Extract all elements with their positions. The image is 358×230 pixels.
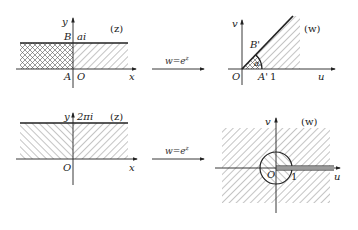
mapping-label: w=ez xyxy=(165,54,190,66)
point-a-label: A xyxy=(63,71,71,82)
mapping-label: w=ez xyxy=(165,144,190,156)
y-axis-label: y xyxy=(61,16,68,27)
point-b-prime-label: B' xyxy=(249,39,260,50)
plane-label: (w) xyxy=(301,116,317,127)
hatched-region xyxy=(73,43,128,69)
x-axis-label: x xyxy=(129,71,135,82)
one-label: 1 xyxy=(270,71,276,82)
mapping-arrow-top: w=ez xyxy=(152,54,204,69)
y-axis-label: y xyxy=(63,111,70,122)
u-axis-label: u xyxy=(334,171,340,182)
panel-top-w: v (w) B' α O A' 1 u xyxy=(228,16,335,85)
plane-label: (z) xyxy=(110,23,123,34)
panel-bottom-z: y (z) 2πi O x xyxy=(16,111,137,185)
u-axis-label: u xyxy=(318,71,324,82)
hatched-region-left xyxy=(20,123,73,159)
mapping-arrow-bottom: w=ez xyxy=(152,144,204,159)
mapping-diagram: y (z) B ai A O x w=ez v (w) B' α O A' 1 … xyxy=(0,0,358,230)
crosshatch-region xyxy=(20,43,73,69)
plane-label: (w) xyxy=(304,23,320,34)
origin-label: O xyxy=(232,71,240,82)
v-axis-label: v xyxy=(232,18,238,29)
v-axis-label: v xyxy=(265,116,271,127)
panel-top-z: y (z) B ai A O x xyxy=(16,16,136,88)
point-a-prime-label: A' xyxy=(257,71,268,82)
panel-bottom-w: v (w) O 1 u xyxy=(215,116,340,213)
hatched-region-right xyxy=(73,123,128,159)
origin-label: O xyxy=(267,169,275,180)
angle-alpha-label: α xyxy=(254,59,260,68)
one-label: 1 xyxy=(291,171,297,182)
origin-label: O xyxy=(63,162,71,173)
point-b-label: B xyxy=(63,31,71,42)
two-pi-i-label: 2πi xyxy=(76,111,93,122)
plane-label: (z) xyxy=(110,111,123,122)
x-axis-label: x xyxy=(129,162,135,173)
point-ai-label: ai xyxy=(77,31,86,42)
origin-label: O xyxy=(77,71,85,82)
